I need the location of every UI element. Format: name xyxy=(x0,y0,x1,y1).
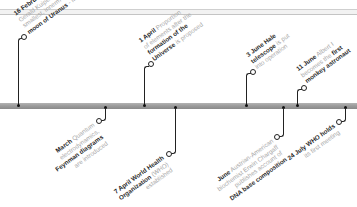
bar-tick xyxy=(296,104,299,107)
bar-tick xyxy=(245,104,248,107)
stem xyxy=(144,69,145,105)
stem xyxy=(175,108,176,151)
stem xyxy=(18,41,19,105)
event-marker-icon xyxy=(148,61,154,67)
event-label: 24 July WHO holds its first meeting xyxy=(286,122,341,168)
event-marker-icon xyxy=(274,134,280,140)
event-marker-icon xyxy=(336,119,342,125)
timeline-bar xyxy=(0,103,357,109)
event-label: March Quantum electrodynamics, Feynman d… xyxy=(45,121,109,179)
event-label: 3 June Hale telescope is put into operat… xyxy=(245,25,296,70)
bar-tick xyxy=(17,104,20,107)
stem xyxy=(283,108,284,134)
event-marker-icon xyxy=(301,85,307,91)
event-marker-icon xyxy=(96,118,102,124)
event-label: June Austrian-American biochemist Erwin … xyxy=(211,137,288,205)
bar-tick xyxy=(143,104,146,107)
event-marker-icon xyxy=(250,69,256,75)
stem xyxy=(246,76,247,105)
event-label: 11 June Albert I becomes the first monke… xyxy=(295,34,352,84)
connector xyxy=(144,66,149,70)
event-label: 16 February Dutch astronomer Gerald Kuip… xyxy=(12,0,101,35)
event-marker-icon xyxy=(166,151,172,157)
event-marker-icon xyxy=(21,34,27,40)
event-label: 7 April World Health Organization (WHO) … xyxy=(113,154,175,207)
